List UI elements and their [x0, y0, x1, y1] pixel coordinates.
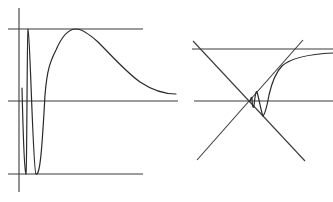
left-panel	[8, 8, 178, 192]
right-converging-curve	[250, 53, 333, 116]
figure-canvas	[0, 0, 333, 202]
left-damped-oscillation-curve	[22, 29, 176, 174]
right-panel	[192, 40, 333, 161]
